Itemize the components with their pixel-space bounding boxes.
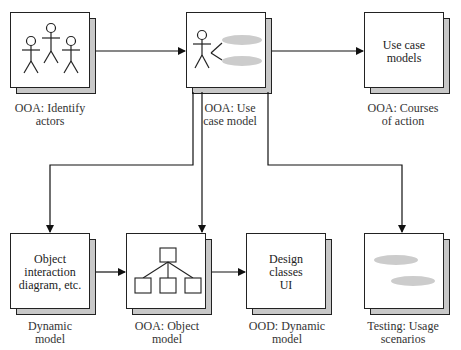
box-face: Design classes UI (246, 233, 326, 309)
node-courses-of-action: Use case models (364, 12, 444, 88)
box-face (126, 233, 206, 309)
node-identify-actors (10, 12, 90, 88)
box-face (10, 12, 90, 88)
box-text: Object interaction diagram, etc. (11, 253, 89, 292)
box-text: Design classes UI (247, 253, 325, 292)
node-dynamic-model: Object interaction diagram, etc. (10, 233, 90, 309)
caption-object-model: OOA: Object model (112, 320, 222, 346)
caption-usage-scenarios: Testing: Usage scenarios (348, 320, 458, 346)
caption-use-case-model: OOA: Use case model (175, 102, 285, 128)
node-object-model (126, 233, 206, 309)
node-usage-scenarios (364, 233, 444, 309)
node-ood-dynamic-model: Design classes UI (246, 233, 326, 309)
box-face (364, 233, 444, 309)
node-use-case-model (186, 12, 266, 88)
caption-ood-dynamic-model: OOD: Dynamic model (232, 320, 342, 346)
box-face: Use case models (364, 12, 444, 88)
actors-icon (11, 13, 89, 87)
scenarios-icon (365, 234, 443, 308)
box-face: Object interaction diagram, etc. (10, 233, 90, 309)
box-text: Use case models (365, 39, 443, 65)
box-face (186, 12, 266, 88)
caption-identify-actors: OOA: Identify actors (0, 102, 105, 128)
use-case-icon (187, 13, 265, 87)
caption-dynamic-model: Dynamic model (0, 320, 105, 346)
diagram-canvas: OOA: Identify actors OOA: Use case model (0, 0, 461, 350)
hierarchy-icon (127, 234, 205, 308)
caption-courses-of-action: OOA: Courses of action (348, 102, 458, 128)
